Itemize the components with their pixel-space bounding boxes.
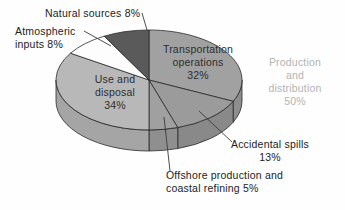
label-transportation-operations: Transportation operations 32%: [158, 43, 238, 82]
leader-line-natural-sources: [142, 13, 147, 30]
label-use-and-disposal: Use and disposal 34%: [75, 73, 155, 112]
pie-slice-side-offshore-production-coastal-refining: [149, 128, 178, 151]
label-production-and-distribution: Production and distribution 50%: [253, 56, 337, 108]
label-offshore-production: Offshore production and coastal refining…: [166, 169, 283, 195]
label-atmospheric-inputs: Atmospheric inputs 8%: [15, 25, 76, 51]
label-natural-sources: Natural sources 8%: [45, 7, 140, 20]
pie-chart: Natural sources 8% Atmospheric inputs 8%…: [0, 0, 345, 210]
label-accidental-spills: Accidental spills 13%: [225, 138, 315, 164]
